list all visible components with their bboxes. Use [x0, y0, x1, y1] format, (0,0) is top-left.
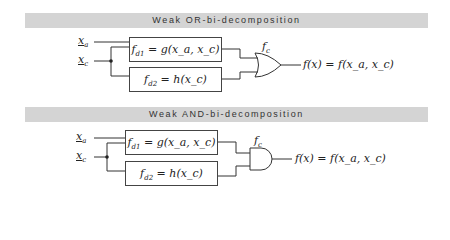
output-expression: f(x) = f(x_a, x_c) — [295, 152, 386, 165]
input-xa-label: xa — [78, 34, 88, 49]
block-fd1: fd1 = g(x_a, x_c) — [125, 130, 218, 155]
input-xa-label: xa — [76, 130, 86, 145]
block-fd2: fd2 = h(x_c) — [125, 161, 218, 186]
gate-label-fc: fc — [254, 134, 262, 149]
gate-label-fc: fc — [262, 40, 270, 55]
input-xc-label: xc — [78, 53, 88, 68]
block-fd2: fd2 = h(x_c) — [129, 67, 222, 92]
and-decomposition-title: Weak AND-bi-decomposition — [25, 107, 428, 122]
input-xc-label: xc — [76, 149, 86, 164]
output-expression: f(x) = f(x_a, x_c) — [303, 58, 394, 71]
block-fd1: fd1 = g(x_a, x_c) — [129, 37, 222, 62]
junction-dot — [109, 59, 113, 63]
and-gate-icon — [250, 148, 272, 170]
junction-dot — [105, 155, 109, 159]
or-gate-icon — [255, 53, 281, 77]
